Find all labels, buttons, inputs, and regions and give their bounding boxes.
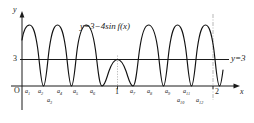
root-label-a10: a10 — [177, 97, 184, 105]
root-label-a7: a7 — [130, 88, 135, 96]
x-tick-label-2: 2 — [215, 88, 219, 96]
curve-equation-label: y=3−4sin f(x) — [80, 22, 130, 31]
y-axis-label: y — [13, 6, 17, 14]
root-label-a8: a8 — [147, 88, 152, 96]
y-tick-label-3: 3 — [13, 55, 17, 63]
root-label-a1: a1 — [25, 88, 30, 96]
function-graph — [0, 0, 254, 123]
origin-label: O — [14, 87, 20, 95]
x-tick-label-1: 1 — [115, 88, 119, 96]
root-label-a12: a12 — [196, 97, 203, 105]
root-label-a6: a6 — [90, 88, 95, 96]
x-axis-label: x — [240, 88, 244, 96]
root-label-a4: a4 — [57, 88, 62, 96]
root-label-a9: a9 — [165, 88, 170, 96]
root-label-a2: a2 — [38, 88, 43, 96]
root-label-a5: a5 — [73, 88, 78, 96]
root-label-a11: a11 — [183, 88, 190, 96]
curve-y-3-minus-4-sin-f-x — [22, 25, 223, 86]
y-axis-arrow-icon — [20, 11, 25, 18]
line-equation-label: y=3 — [231, 54, 246, 63]
root-label-a3: a3 — [47, 97, 52, 105]
